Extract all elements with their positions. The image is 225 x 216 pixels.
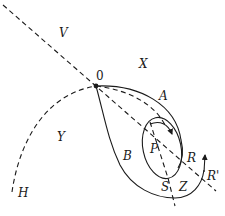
inner-ellipse xyxy=(137,114,187,183)
label-A: A xyxy=(158,89,168,103)
label-V: V xyxy=(59,26,69,40)
dashed-arc-H xyxy=(12,86,96,192)
label-B: B xyxy=(122,149,132,163)
label-R-prime: R' xyxy=(206,169,219,183)
phase-portrait-diagram: V X 0 A Y B P R R' S Z H xyxy=(0,0,225,216)
saddle-point-O xyxy=(94,84,99,89)
label-X: X xyxy=(138,57,148,71)
label-O: 0 xyxy=(96,69,104,83)
label-Y: Y xyxy=(57,130,66,144)
dashed-diagonal-line xyxy=(3,5,216,191)
label-P: P xyxy=(149,142,159,156)
label-H: H xyxy=(17,186,29,200)
label-R: R xyxy=(186,151,196,165)
dashed-curve-arrow xyxy=(96,86,165,125)
label-Z: Z xyxy=(178,180,188,194)
arrow-R-prime xyxy=(204,155,205,172)
outer-solid-loop xyxy=(96,86,183,168)
label-S: S xyxy=(161,180,169,194)
